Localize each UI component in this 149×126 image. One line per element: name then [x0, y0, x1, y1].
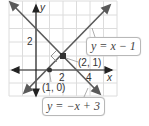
point-label-1-0: (1, 0): [42, 82, 65, 93]
y-tick-2: 2: [27, 36, 33, 47]
point-label-2-1: (2, 1): [78, 57, 101, 68]
x-axis-label: x: [107, 72, 112, 83]
y-axis-arrow-up-icon: [33, 5, 39, 12]
equation-label-y-equals-neg-x-plus-3: y = −x + 3: [42, 97, 105, 116]
x-axis-arrow-left-icon: [12, 67, 19, 73]
y-axis-label: y: [40, 2, 45, 13]
x-tick-4: 4: [86, 72, 92, 83]
y-axis-arrow-down-icon: [33, 89, 39, 96]
equation-label-y-equals-x-minus-1: y = x − 1: [86, 37, 141, 56]
point-2-1: [60, 53, 66, 59]
point-1-0: [47, 68, 52, 73]
